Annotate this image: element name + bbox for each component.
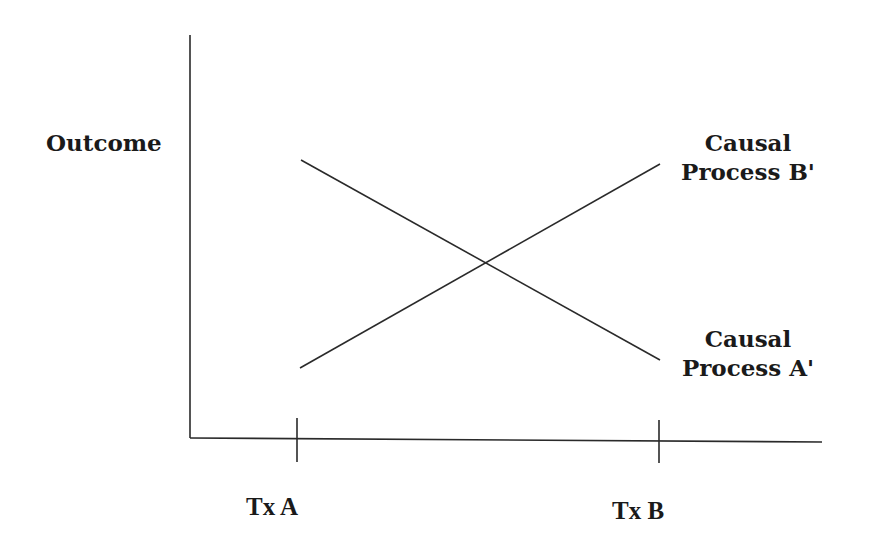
y-axis-label: Outcome <box>46 128 162 157</box>
x-tick-label-tx-a: Tx A <box>246 492 298 521</box>
series-label-causal-process-b: Causal Process B' <box>678 128 818 186</box>
x-axis <box>190 438 822 442</box>
line-causal-process-a <box>301 160 660 360</box>
series-label-b-line1: Causal <box>678 128 818 157</box>
crossover-diagram <box>0 0 872 555</box>
series-label-causal-process-a: Causal Process A' <box>678 324 818 382</box>
series-label-a-line1: Causal <box>678 324 818 353</box>
series-label-b-line2: Process B' <box>678 157 818 186</box>
line-causal-process-b <box>300 164 660 368</box>
x-tick-label-tx-b: Tx B <box>612 496 664 525</box>
series-label-a-line2: Process A' <box>678 353 818 382</box>
